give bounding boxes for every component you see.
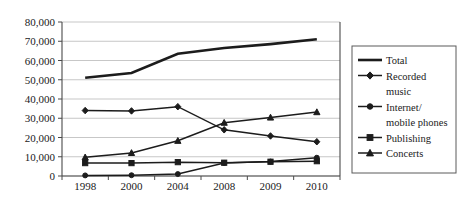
y-axis-tick-label: 80,000 <box>25 16 56 28</box>
y-axis-tick-label: 40,000 <box>25 93 56 105</box>
data-point-square <box>222 160 227 165</box>
x-axis-labels-group: 199820002004200820092010 <box>62 176 340 192</box>
legend-label: mobile phones <box>386 117 448 128</box>
legend-label: Internet/ <box>386 102 422 113</box>
series-line <box>85 39 317 78</box>
legend-marker-square <box>367 135 373 141</box>
data-point-square <box>314 159 319 164</box>
y-axis-tick-label: 60,000 <box>25 55 56 67</box>
chart-legend: TotalRecordedmusicInternet/mobile phones… <box>352 46 456 173</box>
data-point-circle <box>83 173 88 178</box>
series-recorded-music <box>82 103 320 145</box>
y-axis-tick-label: 70,000 <box>25 35 56 47</box>
x-axis-tick-label: 2010 <box>306 180 329 192</box>
x-axis-tick-label: 2009 <box>260 180 283 192</box>
y-axis-tick-label: 0 <box>50 170 56 182</box>
legend-label: Recorded <box>386 71 427 82</box>
data-point-diamond <box>175 103 181 110</box>
data-point-square <box>83 161 88 166</box>
data-point-diamond <box>82 107 88 114</box>
data-point-square <box>268 159 273 164</box>
x-axis-tick-label: 2000 <box>121 180 144 192</box>
x-axis-tick-label: 2008 <box>213 180 236 192</box>
series-line <box>85 161 317 163</box>
data-point-diamond <box>268 133 274 140</box>
y-axis-labels-group: 80,00070,00060,00050,00040,00030,00020,0… <box>25 16 56 182</box>
data-point-circle <box>175 172 180 177</box>
data-point-circle <box>129 173 134 178</box>
legend-item: music <box>386 86 411 97</box>
legend-label: music <box>386 86 411 97</box>
line-chart: 80,00070,00060,00050,00040,00030,00020,0… <box>0 0 461 197</box>
legend-label: Total <box>386 55 408 66</box>
series-line <box>85 158 317 176</box>
y-axis-tick-label: 10,000 <box>25 151 56 163</box>
data-point-diamond <box>314 138 320 145</box>
x-axis-tick-label: 2004 <box>167 180 190 192</box>
data-point-diamond <box>129 108 135 115</box>
legend-label: Publishing <box>386 133 432 144</box>
series-concerts <box>82 109 320 160</box>
data-point-diamond <box>221 127 227 134</box>
data-point-square <box>129 161 134 166</box>
series-internet-mobile-phones <box>83 155 320 178</box>
chart-canvas: 80,00070,00060,00050,00040,00030,00020,0… <box>0 0 461 197</box>
gridlines-group <box>58 22 340 176</box>
legend-label: Concerts <box>386 148 423 159</box>
y-axis-tick-label: 30,000 <box>25 112 56 124</box>
series-publishing <box>83 159 320 166</box>
y-axis-tick-label: 20,000 <box>25 132 56 144</box>
legend-marker-circle <box>367 104 373 110</box>
y-axis-tick-label: 50,000 <box>25 74 56 86</box>
x-axis-tick-label: 1998 <box>74 180 97 192</box>
data-point-square <box>175 160 180 165</box>
legend-item: mobile phones <box>386 117 448 128</box>
series-line <box>85 107 317 142</box>
series-total <box>85 39 317 78</box>
